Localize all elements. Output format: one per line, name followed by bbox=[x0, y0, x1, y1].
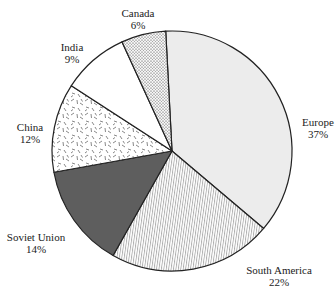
pie-slices bbox=[52, 31, 292, 271]
label-india: India9% bbox=[61, 41, 84, 65]
slice-name: China bbox=[17, 121, 43, 133]
label-china: China12% bbox=[17, 121, 43, 145]
slice-name: India bbox=[61, 41, 84, 53]
label-south-america: South America22% bbox=[246, 264, 312, 288]
label-canada: Canada6% bbox=[122, 7, 155, 31]
slice-name: South America bbox=[246, 264, 312, 276]
slice-percent: 6% bbox=[122, 19, 155, 31]
slice-percent: 12% bbox=[17, 133, 43, 145]
slice-name: Canada bbox=[122, 7, 155, 19]
slice-name: Europe bbox=[302, 116, 334, 128]
label-europe: Europe37% bbox=[302, 116, 334, 140]
label-soviet-union: Soviet Union14% bbox=[7, 231, 65, 255]
slice-percent: 37% bbox=[302, 128, 334, 140]
slice-name: Soviet Union bbox=[7, 231, 65, 243]
slice-percent: 9% bbox=[61, 53, 84, 65]
slice-percent: 14% bbox=[7, 243, 65, 255]
slice-percent: 22% bbox=[246, 276, 312, 288]
